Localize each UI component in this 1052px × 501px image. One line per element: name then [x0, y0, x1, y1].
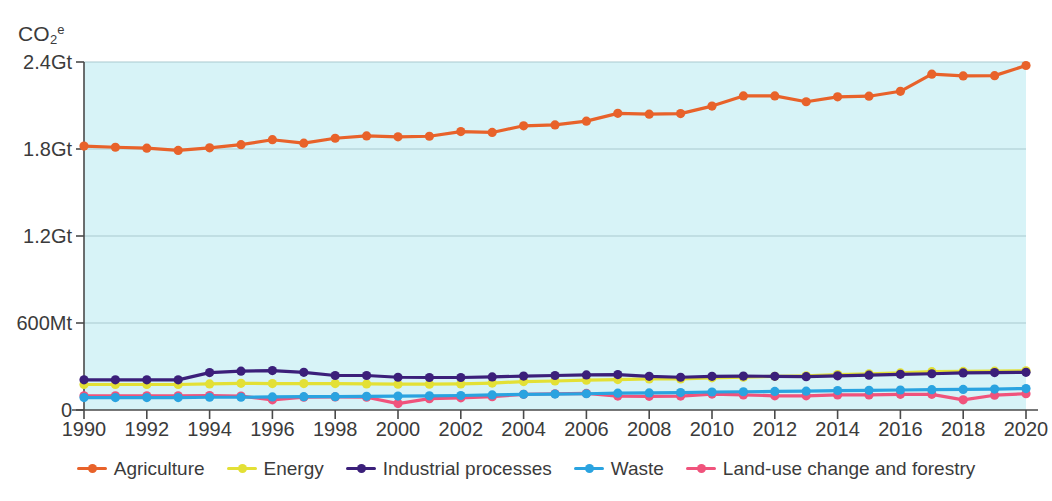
y-axis-tick-label: 1.2Gt — [0, 225, 72, 248]
data-point — [174, 393, 183, 402]
data-point — [456, 127, 465, 136]
data-point — [582, 389, 591, 398]
data-point — [550, 120, 559, 129]
x-axis-tick-label: 2016 — [878, 418, 923, 441]
data-point — [142, 393, 151, 402]
data-point — [236, 367, 245, 376]
data-point — [896, 370, 905, 379]
data-point — [613, 370, 622, 379]
legend-item[interactable]: Agriculture — [77, 459, 205, 478]
legend-label: Industrial processes — [383, 459, 552, 478]
x-axis-tick-label: 1994 — [187, 418, 232, 441]
legend-item[interactable]: Waste — [574, 459, 664, 478]
data-point — [990, 385, 999, 394]
data-point — [833, 92, 842, 101]
data-point — [707, 101, 716, 110]
y-axis-tick-label: 600Mt — [0, 312, 72, 335]
data-point — [205, 379, 214, 388]
data-point — [645, 110, 654, 119]
data-point — [362, 379, 371, 388]
data-point — [519, 371, 528, 380]
data-point — [613, 389, 622, 398]
data-point — [1021, 368, 1030, 377]
x-axis-tick-label: 1992 — [125, 418, 170, 441]
data-point — [990, 368, 999, 377]
data-point — [550, 371, 559, 380]
data-point — [142, 375, 151, 384]
data-point — [864, 371, 873, 380]
legend-label: Waste — [611, 459, 664, 478]
data-point — [236, 393, 245, 402]
emissions-line-chart: CO2e 0600Mt1.2Gt1.8Gt2.4Gt 1990199219941… — [0, 0, 1052, 501]
data-point — [707, 387, 716, 396]
data-point — [488, 390, 497, 399]
data-point — [268, 379, 277, 388]
x-axis-tick-label: 1990 — [62, 418, 107, 441]
data-point — [959, 385, 968, 394]
data-point — [331, 371, 340, 380]
data-point — [174, 146, 183, 155]
legend-item[interactable]: Energy — [227, 459, 324, 478]
data-point — [676, 109, 685, 118]
data-point — [802, 387, 811, 396]
data-point — [205, 393, 214, 402]
data-point — [111, 375, 120, 384]
data-point — [802, 372, 811, 381]
legend-label: Land-use change and forestry — [723, 459, 975, 478]
data-point — [425, 132, 434, 141]
data-point — [927, 369, 936, 378]
data-point — [79, 375, 88, 384]
data-point — [362, 392, 371, 401]
data-point — [739, 91, 748, 100]
data-point — [519, 390, 528, 399]
legend-marker-icon — [686, 463, 716, 475]
x-axis-tick-label: 1996 — [250, 418, 295, 441]
x-axis-tick-label: 2006 — [564, 418, 609, 441]
legend-item[interactable]: Industrial processes — [346, 459, 552, 478]
data-point — [268, 135, 277, 144]
data-point — [362, 131, 371, 140]
data-point — [959, 395, 968, 404]
data-point — [645, 388, 654, 397]
data-point — [488, 128, 497, 137]
data-point — [707, 372, 716, 381]
data-point — [645, 372, 654, 381]
data-point — [205, 368, 214, 377]
data-point — [299, 379, 308, 388]
x-axis-tick-label: 2000 — [376, 418, 421, 441]
data-point — [864, 92, 873, 101]
data-point — [613, 109, 622, 118]
data-point — [142, 144, 151, 153]
data-point — [111, 143, 120, 152]
data-point — [331, 392, 340, 401]
data-point — [959, 71, 968, 80]
data-point — [739, 371, 748, 380]
legend-marker-icon — [346, 463, 376, 475]
x-axis-tick-label: 2010 — [690, 418, 735, 441]
legend-item[interactable]: Land-use change and forestry — [686, 459, 975, 478]
data-point — [519, 121, 528, 130]
data-point — [833, 371, 842, 380]
data-point — [393, 391, 402, 400]
data-point — [770, 372, 779, 381]
data-point — [959, 368, 968, 377]
data-point — [236, 379, 245, 388]
data-point — [299, 368, 308, 377]
legend-label: Energy — [264, 459, 324, 478]
data-point — [833, 386, 842, 395]
legend-label: Agriculture — [114, 459, 205, 478]
data-point — [802, 97, 811, 106]
data-point — [488, 372, 497, 381]
data-point — [676, 373, 685, 382]
data-point — [1021, 61, 1030, 70]
legend-marker-icon — [574, 463, 604, 475]
data-point — [299, 392, 308, 401]
data-point — [1021, 384, 1030, 393]
data-point — [456, 391, 465, 400]
data-point — [393, 373, 402, 382]
data-point — [927, 385, 936, 394]
x-axis-tick-label: 2012 — [753, 418, 798, 441]
y-axis-tick-label: 1.8Gt — [0, 138, 72, 161]
data-point — [393, 132, 402, 141]
x-axis-tick-label: 2020 — [1004, 418, 1049, 441]
